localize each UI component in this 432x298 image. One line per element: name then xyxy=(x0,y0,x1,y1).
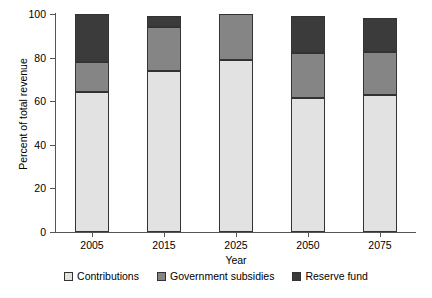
y-tick-label-20: 20 xyxy=(34,183,46,193)
legend-swatch-icon xyxy=(64,272,73,281)
y-tick-40 xyxy=(50,145,55,146)
bar-2015 xyxy=(147,14,181,232)
x-tick-2075 xyxy=(380,233,381,237)
bar-segment-reserve-2075 xyxy=(363,18,397,52)
y-tick-100 xyxy=(50,14,55,15)
bar-segment-contributions-2075 xyxy=(363,95,397,232)
legend-label: Government subsidies xyxy=(170,270,274,282)
x-tick-label-2050: 2050 xyxy=(278,240,338,251)
x-tick-2025 xyxy=(236,233,237,237)
y-tick-20 xyxy=(50,188,55,189)
x-tick-label-2075: 2075 xyxy=(350,240,410,251)
bar-2005 xyxy=(75,14,109,232)
bar-segment-subsidies-2005 xyxy=(75,62,109,93)
bar-2050 xyxy=(291,14,325,232)
bar-2025 xyxy=(219,14,253,232)
y-tick-label-40: 40 xyxy=(34,140,46,150)
bar-segment-reserve-2005 xyxy=(75,14,109,62)
x-tick-2050 xyxy=(308,233,309,237)
bar-2075 xyxy=(363,14,397,232)
legend-item-reserve-fund: Reserve fund xyxy=(292,270,367,282)
legend-swatch-icon xyxy=(157,272,166,281)
chart-legend: ContributionsGovernment subsidiesReserve… xyxy=(0,270,432,282)
x-tick-label-2025: 2025 xyxy=(206,240,266,251)
bar-segment-contributions-2015 xyxy=(147,71,181,232)
y-tick-0 xyxy=(50,232,55,233)
y-axis-title: Percent of total revenue xyxy=(17,14,29,214)
bar-segment-subsidies-2015 xyxy=(147,27,181,71)
x-axis-title: Year xyxy=(56,254,416,266)
y-tick-60 xyxy=(50,101,55,102)
bar-segment-reserve-2015 xyxy=(147,16,181,27)
legend-swatch-icon xyxy=(292,272,301,281)
bar-segment-subsidies-2075 xyxy=(363,52,397,95)
bar-segment-contributions-2050 xyxy=(291,98,325,232)
bar-segment-contributions-2025 xyxy=(219,60,253,232)
stacked-bar-chart: 020406080100 20052015202520502075 Percen… xyxy=(0,0,432,298)
y-tick-label-0: 0 xyxy=(40,227,46,237)
legend-label: Reserve fund xyxy=(305,270,367,282)
bar-segment-subsidies-2050 xyxy=(291,53,325,98)
bar-segment-reserve-2050 xyxy=(291,16,325,53)
y-tick-label-100: 100 xyxy=(28,9,46,19)
bar-segment-subsidies-2025 xyxy=(219,14,253,60)
y-tick-80 xyxy=(50,58,55,59)
bar-segment-contributions-2005 xyxy=(75,92,109,232)
y-tick-label-80: 80 xyxy=(34,53,46,63)
x-tick-2015 xyxy=(164,233,165,237)
x-tick-label-2005: 2005 xyxy=(62,240,122,251)
y-tick-label-60: 60 xyxy=(34,96,46,106)
x-tick-label-2015: 2015 xyxy=(134,240,194,251)
legend-item-government-subsidies: Government subsidies xyxy=(157,270,274,282)
x-tick-2005 xyxy=(92,233,93,237)
legend-item-contributions: Contributions xyxy=(64,270,139,282)
plot-area xyxy=(56,14,416,232)
legend-label: Contributions xyxy=(77,270,139,282)
